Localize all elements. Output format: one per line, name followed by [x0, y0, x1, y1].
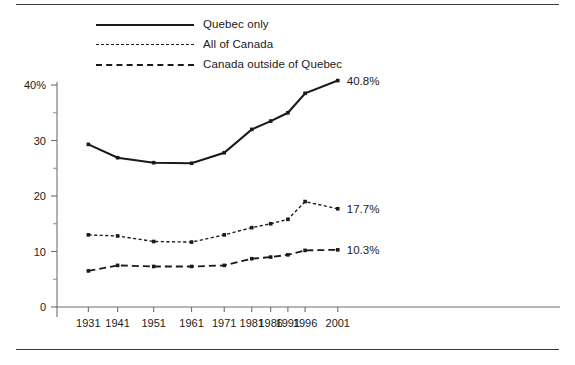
data-point-marker: [336, 79, 340, 83]
series-line-dashed: [88, 250, 337, 271]
data-point-marker: [222, 233, 226, 237]
data-point-marker: [116, 264, 120, 268]
data-point-marker: [286, 218, 290, 222]
y-tick-label: 0: [40, 301, 46, 313]
data-point-marker: [303, 200, 307, 204]
data-point-marker: [152, 240, 156, 244]
data-point-marker: [190, 161, 194, 165]
data-point-marker: [152, 265, 156, 269]
data-point-marker: [336, 207, 340, 211]
x-tick-label: 1971: [212, 317, 236, 329]
data-point-marker: [190, 265, 194, 269]
data-point-marker: [87, 233, 91, 237]
chart-figure: Quebec only All of Canada Canada outside…: [0, 0, 575, 365]
x-tick-label: 1941: [105, 317, 129, 329]
data-point-marker: [116, 156, 120, 160]
data-point-marker: [250, 128, 254, 132]
data-point-marker: [222, 151, 226, 155]
line-chart-plot: 40%3020100 19311941195119611971198119861…: [0, 0, 575, 365]
series-end-label: 10.3%: [347, 244, 380, 256]
data-point-marker: [87, 143, 91, 147]
data-point-marker: [116, 234, 120, 238]
y-tick-label: 30: [34, 135, 46, 147]
end-labels: 40.8%17.7%10.3%: [347, 75, 380, 256]
x-tick-label: 1931: [76, 317, 100, 329]
data-point-marker: [250, 226, 254, 230]
data-point-marker: [87, 269, 91, 273]
data-point-marker: [190, 240, 194, 244]
y-tick-label: 20: [34, 190, 46, 202]
y-tick-label: 40%: [24, 79, 46, 91]
y-axis: 40%3020100: [24, 79, 57, 317]
data-point-marker: [269, 119, 273, 123]
data-point-marker: [152, 161, 156, 165]
x-tick-label: 2001: [326, 317, 350, 329]
data-point-marker: [336, 248, 340, 252]
series-end-label: 17.7%: [347, 203, 380, 215]
series-end-label: 40.8%: [347, 75, 380, 87]
x-tick-label: 1996: [293, 317, 317, 329]
x-axis: 1931194119511961197119811986199119962001: [57, 307, 560, 329]
data-point-marker: [269, 222, 273, 226]
data-point-marker: [222, 264, 226, 268]
data-point-marker: [250, 257, 254, 261]
series-layer: [87, 79, 340, 273]
x-tick-label: 1961: [179, 317, 203, 329]
data-point-marker: [303, 92, 307, 96]
data-point-marker: [303, 249, 307, 253]
data-point-marker: [286, 111, 290, 115]
y-tick-label: 10: [34, 246, 46, 258]
series-line-solid: [88, 81, 337, 164]
x-tick-label: 1951: [141, 317, 165, 329]
data-point-marker: [286, 253, 290, 257]
series-line-dotted: [88, 202, 337, 243]
data-point-marker: [269, 255, 273, 259]
